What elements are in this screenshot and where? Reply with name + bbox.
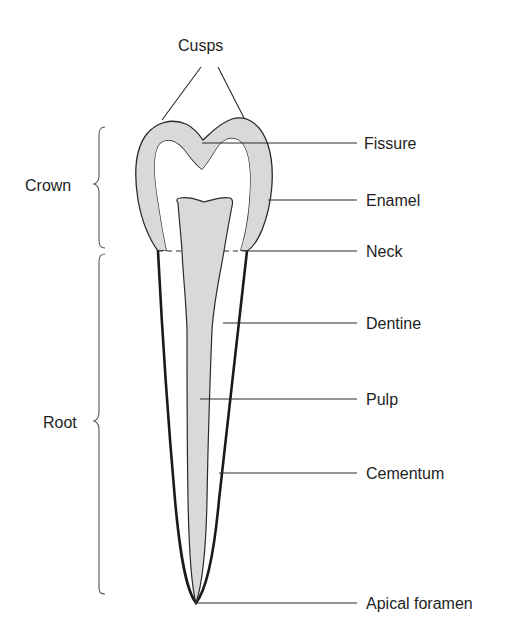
- cusps-leader-left: [162, 67, 201, 120]
- label-pulp: Pulp: [366, 392, 398, 408]
- label-apical-foramen: Apical foramen: [366, 596, 473, 612]
- label-neck: Neck: [366, 244, 402, 260]
- label-cementum: Cementum: [366, 466, 444, 482]
- cusps-leader-right: [218, 67, 244, 118]
- root-bracket: [94, 254, 105, 594]
- label-enamel: Enamel: [366, 193, 420, 209]
- crown-bracket: [94, 127, 105, 248]
- label-dentine: Dentine: [366, 316, 421, 332]
- label-fissure: Fissure: [364, 136, 416, 152]
- label-crown: Crown: [25, 178, 71, 194]
- tooth-diagram: Cusps Crown Root Fissure Enamel Neck Den…: [0, 0, 530, 635]
- tooth-illustration: [0, 0, 530, 635]
- label-root: Root: [43, 415, 77, 431]
- label-cusps: Cusps: [178, 38, 223, 54]
